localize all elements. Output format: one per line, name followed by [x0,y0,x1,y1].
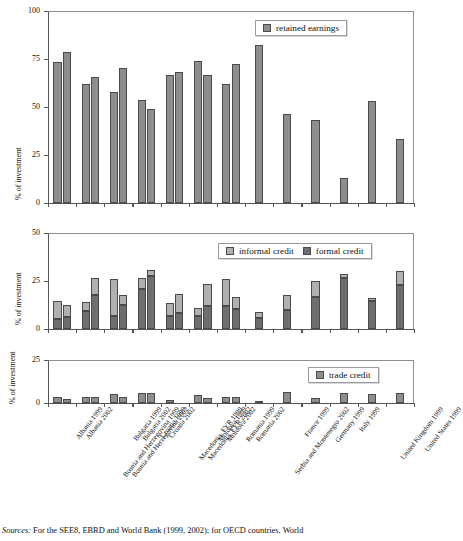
bar [147,109,155,203]
legend-swatch-retained-earnings [263,24,271,32]
bar [63,52,71,203]
bar-segment-formal-credit [138,289,146,329]
bar-segment-formal-credit [340,278,348,329]
bar-segment-informal-credit [166,303,174,316]
x-tick-mark [48,203,49,207]
bar [53,397,61,403]
y-tick-mark [44,360,48,361]
legend-item-informal-credit[interactable]: informal credit [226,246,294,256]
bar [311,398,319,403]
x-tick-mark [301,203,302,207]
legend-label-trade-credit: trade credit [329,370,371,380]
bar-segment-informal-credit [368,298,376,301]
bar-segment-formal-credit [396,285,404,329]
stacked-bar [203,284,211,329]
bar [368,101,376,203]
bar-segment-informal-credit [63,305,71,317]
stacked-bar [119,295,127,329]
x-tick-mark [330,329,331,333]
bar [340,393,348,403]
x-tick-mark [104,329,105,333]
bar [396,393,404,403]
x-tick-mark [161,203,162,207]
bar [53,62,61,203]
bar [110,394,118,403]
x-tick-mark [330,203,331,207]
bar [222,84,230,203]
legend-item-formal-credit[interactable]: formal credit [303,246,364,256]
source-note-text: For the SEE8, EBRD and World Bank (1999,… [31,526,303,535]
bar [147,393,155,403]
bar-segment-formal-credit [166,316,174,329]
x-tick-mark [358,203,359,207]
bar-segment-informal-credit [283,295,291,310]
x-tick-mark [273,203,274,207]
x-axis-baseline [48,329,414,330]
x-tick-mark [217,203,218,207]
stacked-bar [110,279,118,329]
panel1-legend[interactable]: retained earnings [255,20,347,36]
x-tick-mark [217,329,218,333]
y-tick-label: 75 [0,55,40,63]
legend-item-trade-credit[interactable]: trade credit [316,370,371,380]
bar-segment-informal-credit [53,301,61,319]
y-tick-label: 0 [0,199,40,207]
bar [283,392,291,403]
bar-segment-formal-credit [203,306,211,329]
y-tick-label: 50 [0,229,40,237]
y-tick-label: 0 [0,325,40,333]
bar [119,397,127,403]
bar [194,61,202,203]
bar-segment-informal-credit [138,278,146,290]
y-tick-mark [44,59,48,60]
stacked-bar [396,271,404,329]
bar [311,120,319,203]
x-tick-mark [301,329,302,333]
bar-segment-formal-credit [147,276,155,329]
bar [91,397,99,403]
x-tick-mark [189,329,190,333]
legend-label-informal-credit: informal credit [239,246,294,256]
x-tick-mark [386,203,387,207]
bar [340,178,348,203]
panel3-legend[interactable]: trade credit [308,367,379,383]
x-tick-mark [358,329,359,333]
bar-segment-formal-credit [53,319,61,329]
bar-segment-informal-credit [147,270,155,276]
bar [232,64,240,203]
y-tick-label: 50 [0,103,40,111]
x-tick-mark [273,329,274,333]
x-axis-baseline [48,403,414,404]
bar [82,84,90,203]
x-tick-mark [76,329,77,333]
x-tick-mark [161,329,162,333]
x-tick-mark [414,203,415,207]
bar [110,92,118,203]
bar [175,72,183,203]
bar-segment-informal-credit [232,297,240,309]
y-tick-mark [44,281,48,282]
bar-segment-informal-credit [311,281,319,297]
y-tick-mark [44,233,48,234]
stacked-bar [82,302,90,329]
y-tick-mark [44,107,48,108]
stacked-bar [138,278,146,329]
legend-item-retained-earnings[interactable]: retained earnings [263,23,339,33]
bar [203,398,211,403]
bar [368,394,376,403]
panel2-legend[interactable]: informal credit formal credit [218,243,372,259]
stacked-bar [166,303,174,329]
legend-swatch-informal-credit [226,247,234,255]
panel3-y-axis-title: % of investment [8,344,17,404]
bar [119,68,127,203]
stacked-bar [340,274,348,329]
bar [255,45,263,203]
source-note: Sources: For the SEE8, EBRD and World Ba… [2,526,418,536]
source-note-prefix: Sources: [2,526,31,535]
legend-label-formal-credit: formal credit [316,246,364,256]
bar-segment-formal-credit [63,317,71,329]
x-tick-mark [189,203,190,207]
bar-segment-formal-credit [311,297,319,329]
bar [166,75,174,203]
